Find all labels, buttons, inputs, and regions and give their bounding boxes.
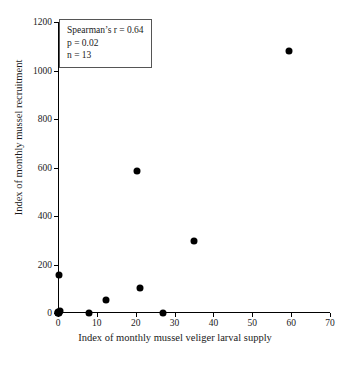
x-tick-mark: [213, 313, 214, 317]
y-tick-label: 1200: [33, 17, 52, 27]
data-point: [103, 296, 110, 303]
sample-size-text: n = 13: [67, 49, 144, 62]
y-tick-label: 800: [38, 114, 52, 124]
x-axis-title: Index of monthly mussel veliger larval s…: [0, 332, 350, 343]
data-point: [191, 237, 198, 244]
x-tick-label: 10: [92, 318, 102, 328]
data-point: [55, 308, 62, 315]
y-tick-label: 0: [47, 308, 52, 318]
x-tick-label: 0: [56, 318, 61, 328]
x-tick-label: 30: [170, 318, 180, 328]
y-tick-label: 600: [38, 163, 52, 173]
scatter-plot-figure: 020040060080010001200 010203040506070 In…: [0, 0, 350, 369]
x-tick-label: 70: [325, 318, 335, 328]
statistics-annotation-box: Spearman’s r = 0.64 p = 0.02 n = 13: [59, 19, 152, 68]
x-axis-line: [58, 312, 330, 313]
data-point: [55, 272, 62, 279]
data-point: [159, 310, 166, 317]
p-value-text: p = 0.02: [67, 37, 144, 50]
y-axis-title: Index of monthly mussel recruitment: [13, 13, 24, 263]
data-point: [286, 48, 293, 55]
x-tick-mark: [291, 313, 292, 317]
x-tick-mark: [97, 313, 98, 317]
y-tick-mark: [54, 168, 58, 169]
data-point: [86, 310, 93, 317]
x-tick-mark: [136, 313, 137, 317]
y-tick-label: 200: [38, 260, 52, 270]
y-tick-label: 400: [38, 211, 52, 221]
y-tick-label: 1000: [33, 66, 52, 76]
x-tick-mark: [252, 313, 253, 317]
data-point: [133, 168, 140, 175]
x-tick-label: 40: [209, 318, 219, 328]
x-tick-label: 60: [286, 318, 296, 328]
y-tick-mark: [54, 119, 58, 120]
y-tick-mark: [54, 71, 58, 72]
x-tick-mark: [175, 313, 176, 317]
x-tick-mark: [330, 313, 331, 317]
spearman-r-text: Spearman’s r = 0.64: [67, 24, 144, 37]
x-tick-label: 20: [131, 318, 141, 328]
y-tick-mark: [54, 22, 58, 23]
data-point: [136, 284, 143, 291]
y-tick-mark: [54, 216, 58, 217]
x-tick-label: 50: [248, 318, 258, 328]
y-tick-mark: [54, 265, 58, 266]
